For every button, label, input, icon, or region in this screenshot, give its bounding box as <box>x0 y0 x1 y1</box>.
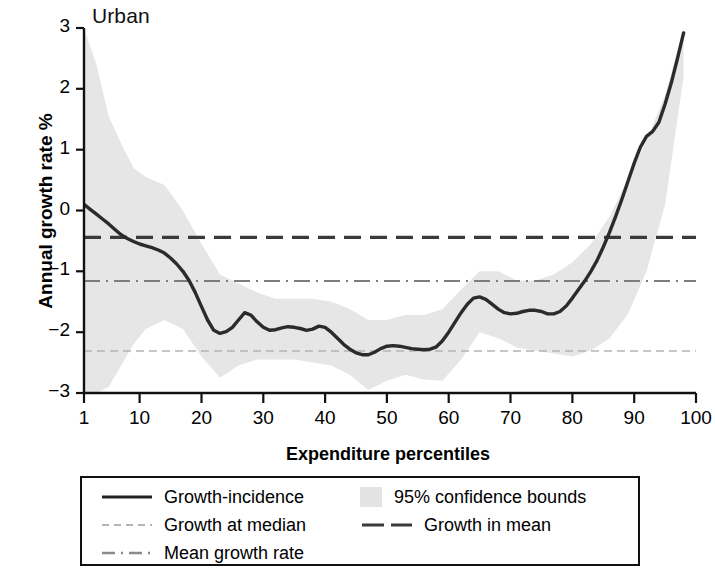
plot-area <box>0 0 715 470</box>
x-tick-label: 30 <box>233 407 293 429</box>
y-tick-label: 2 <box>12 76 70 98</box>
legend-item-label: Growth-incidence <box>164 487 304 508</box>
x-tick-label: 80 <box>542 407 602 429</box>
legend-item-label: 95% confidence bounds <box>394 487 586 508</box>
legend-swatch-confidence-band <box>360 487 382 507</box>
legend-item-label: Growth at median <box>164 515 306 536</box>
x-tick-label: 90 <box>604 407 664 429</box>
y-tick-label: −1 <box>12 258 70 280</box>
y-tick-label: 0 <box>12 198 70 220</box>
x-tick-label: 10 <box>110 407 170 429</box>
x-tick-label: 70 <box>481 407 541 429</box>
growth-incidence-curve-figure: Urban Annual growth rate % −3−2−10123110… <box>0 0 715 572</box>
y-tick-label: 1 <box>12 137 70 159</box>
legend-sample-dotted-line <box>100 518 154 532</box>
x-tick-label: 60 <box>419 407 479 429</box>
legend-item-label: Growth in mean <box>424 515 551 536</box>
x-tick-label: 1 <box>54 407 114 429</box>
legend-item: Growth at median <box>100 512 306 538</box>
legend-sample-dashdot-line <box>100 546 154 560</box>
legend-item: Mean growth rate <box>100 540 304 566</box>
confidence-band-group <box>84 28 684 393</box>
y-tick-label: 3 <box>12 15 70 37</box>
x-tick-label: 40 <box>295 407 355 429</box>
y-tick-label: −2 <box>12 319 70 341</box>
legend-item: 95% confidence bounds <box>360 484 586 510</box>
legend-sample-solid-line <box>100 490 154 504</box>
legend-item-label: Mean growth rate <box>164 543 304 564</box>
x-tick-label: 20 <box>171 407 231 429</box>
chart-legend: Growth-incidence95% confidence boundsGro… <box>80 476 640 566</box>
legend-item: Growth in mean <box>360 512 551 538</box>
x-tick-label: 100 <box>666 407 715 429</box>
legend-item: Growth-incidence <box>100 484 304 510</box>
y-tick-label: −3 <box>12 380 70 402</box>
confidence-band-95 <box>84 28 684 393</box>
legend-sample-dashed-line <box>360 518 414 532</box>
x-axis-label: Expenditure percentiles <box>78 444 698 465</box>
x-tick-label: 50 <box>357 407 417 429</box>
